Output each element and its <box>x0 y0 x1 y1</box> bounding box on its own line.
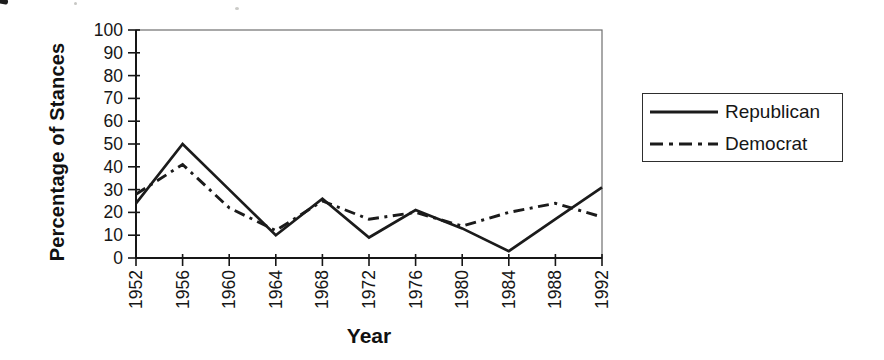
y-tick-label: 90 <box>104 43 124 63</box>
legend-item-republican: Republican <box>650 96 842 128</box>
stances-line-chart-figure: Percentage of Stances 010203040506070809… <box>0 0 884 360</box>
democrat-dash-dot-line-icon <box>650 140 718 148</box>
plot-frame <box>136 30 602 258</box>
y-tick-label: 80 <box>104 66 124 86</box>
y-tick-label: 100 <box>94 20 123 40</box>
republican-solid-line-icon <box>650 108 718 116</box>
y-tick-label: 20 <box>104 202 124 222</box>
x-axis-title: Year <box>347 324 391 348</box>
y-tick-label: 70 <box>104 88 124 108</box>
legend: Republican Democrat <box>642 93 843 162</box>
x-tick-label: 1992 <box>592 270 612 309</box>
y-tick-label: 40 <box>104 157 124 177</box>
x-tick-label: 1980 <box>452 270 472 309</box>
x-tick-label: 1976 <box>406 270 426 309</box>
legend-label-democrat: Democrat <box>725 133 807 155</box>
y-tick-label: 10 <box>104 225 124 245</box>
y-tick-label: 50 <box>104 134 124 154</box>
scan-artifact <box>235 7 239 10</box>
x-tick-label: 1960 <box>219 270 239 309</box>
legend-item-democrat: Democrat <box>650 128 842 160</box>
x-tick-label: 1952 <box>126 270 146 309</box>
y-tick-label: 0 <box>113 248 123 268</box>
y-axis-title: Percentage of Stances <box>46 43 69 262</box>
legend-label-republican: Republican <box>725 101 820 123</box>
x-tick-label: 1964 <box>266 270 286 309</box>
x-tick-label: 1984 <box>499 270 519 309</box>
x-tick-label: 1972 <box>359 270 379 309</box>
scan-artifact <box>74 2 77 5</box>
x-tick-label: 1968 <box>312 270 332 309</box>
x-tick-label: 1956 <box>173 270 193 309</box>
y-tick-label: 30 <box>104 180 124 200</box>
x-tick-label: 1988 <box>545 270 565 309</box>
y-tick-label: 60 <box>104 111 124 131</box>
series-democrat-line <box>136 165 602 231</box>
line-chart: 0102030405060708090100195219561960196419… <box>0 0 884 360</box>
series-republican-line <box>136 144 602 251</box>
